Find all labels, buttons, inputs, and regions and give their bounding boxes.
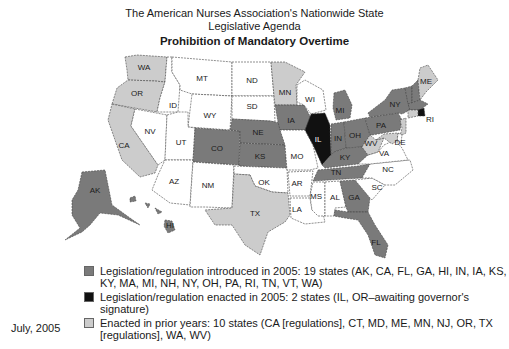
svg-text:WY: WY xyxy=(204,111,218,120)
legend-item-introduced: Legislation/regulation introduced in 200… xyxy=(84,265,509,289)
svg-text:NC: NC xyxy=(382,165,394,174)
svg-text:IN: IN xyxy=(334,134,342,143)
swatch-introduced xyxy=(84,266,94,276)
svg-text:SD: SD xyxy=(246,102,257,111)
legend-label-line1: Legislation/regulation enacted in 2005: … xyxy=(100,291,509,315)
svg-text:CO: CO xyxy=(211,144,223,153)
legend-label-line1: Legislation/regulation introduced in 200… xyxy=(100,265,509,277)
svg-text:IL: IL xyxy=(315,135,322,144)
date-label: July, 2005 xyxy=(11,322,60,334)
svg-text:WV: WV xyxy=(365,139,379,148)
svg-text:WI: WI xyxy=(305,95,315,104)
svg-text:ND: ND xyxy=(246,76,258,85)
svg-text:MN: MN xyxy=(279,88,292,97)
svg-text:MI: MI xyxy=(336,106,345,115)
svg-text:AZ: AZ xyxy=(169,177,179,186)
svg-text:GA: GA xyxy=(348,193,360,202)
svg-text:MO: MO xyxy=(291,152,304,161)
svg-text:NY: NY xyxy=(389,100,401,109)
svg-text:AK: AK xyxy=(90,186,101,195)
svg-text:AR: AR xyxy=(291,179,302,188)
svg-text:OR: OR xyxy=(131,89,143,98)
svg-text:NE: NE xyxy=(252,128,263,137)
svg-text:VA: VA xyxy=(379,149,390,158)
svg-text:NV: NV xyxy=(144,127,156,136)
svg-text:OK: OK xyxy=(258,178,270,187)
svg-text:MS: MS xyxy=(310,192,322,201)
legend-label-line2: KY, MA, MI, NH, NY, OH, PA, RI, TN, VT, … xyxy=(100,277,509,289)
legend-label-line2: [regulations], WA, WV) xyxy=(100,329,509,341)
svg-text:ID: ID xyxy=(169,101,177,110)
svg-text:NM: NM xyxy=(202,181,215,190)
svg-text:AL: AL xyxy=(330,193,340,202)
swatch-enacted-2005 xyxy=(84,292,94,302)
state-TN[interactable] xyxy=(313,164,370,181)
svg-text:PA: PA xyxy=(376,121,387,130)
legend-item-enacted-prior: Enacted in prior years: 10 states (CA [r… xyxy=(84,317,509,341)
svg-text:RI: RI xyxy=(426,115,434,124)
svg-text:ME: ME xyxy=(420,77,432,86)
legend: Legislation/regulation introduced in 200… xyxy=(84,265,509,343)
state-FL[interactable] xyxy=(334,210,388,258)
svg-text:TX: TX xyxy=(250,209,261,218)
svg-text:IA: IA xyxy=(287,116,295,125)
svg-text:WA: WA xyxy=(138,63,151,72)
state-AK[interactable] xyxy=(65,170,140,240)
state-CT[interactable] xyxy=(408,110,418,118)
swatch-enacted-prior xyxy=(84,318,94,328)
svg-text:KY: KY xyxy=(340,153,351,162)
svg-text:KS: KS xyxy=(255,152,266,161)
svg-text:UT: UT xyxy=(176,138,187,147)
svg-text:TN: TN xyxy=(331,168,342,177)
svg-text:SC: SC xyxy=(371,183,382,192)
svg-text:CA: CA xyxy=(118,141,130,150)
legend-label-line1: Enacted in prior years: 10 states (CA [r… xyxy=(100,317,509,329)
svg-text:DE: DE xyxy=(394,138,405,147)
svg-text:LA: LA xyxy=(292,205,302,214)
state-MI[interactable] xyxy=(333,90,352,120)
legend-item-enacted-2005: Legislation/regulation enacted in 2005: … xyxy=(84,291,509,315)
svg-text:OH: OH xyxy=(349,131,361,140)
svg-text:FL: FL xyxy=(371,238,381,247)
svg-text:HI: HI xyxy=(166,221,174,230)
svg-text:MT: MT xyxy=(196,74,208,83)
state-HI-islands[interactable] xyxy=(130,196,162,214)
